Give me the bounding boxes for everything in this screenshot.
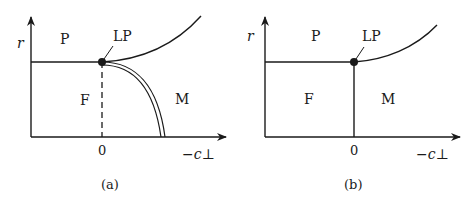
lp-label: LP [113, 28, 132, 44]
x-axis-label: −c⊥ [416, 146, 449, 162]
y-axis-label: r [247, 28, 255, 44]
phase-diagrams: r P LP F M 0 −c⊥ (a) r P LP F M 0 −c⊥ (b… [0, 0, 475, 202]
caption-a: (a) [101, 177, 119, 192]
fm-first-order-outer [102, 62, 165, 137]
fm-first-order-inner [102, 65, 161, 137]
lifshitz-point [98, 58, 106, 66]
region-p: P [60, 31, 69, 47]
panel-b: r P LP F M 0 −c⊥ (b) [247, 17, 460, 192]
origin-tick: 0 [350, 143, 358, 158]
lifshitz-point [350, 58, 358, 66]
region-f: F [304, 91, 314, 107]
lp-pointer [356, 47, 364, 59]
panel-a: r P LP F M 0 −c⊥ (a) [17, 16, 226, 192]
origin-tick: 0 [98, 143, 106, 158]
x-axis-label: −c⊥ [182, 146, 215, 162]
lp-pointer [104, 46, 113, 59]
caption-b: (b) [344, 177, 362, 192]
region-m: M [381, 91, 395, 107]
region-m: M [175, 91, 189, 107]
y-axis-label: r [17, 35, 25, 51]
region-p: P [311, 28, 320, 44]
region-f: F [80, 92, 90, 108]
lp-label: LP [362, 28, 381, 44]
